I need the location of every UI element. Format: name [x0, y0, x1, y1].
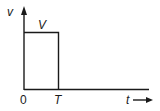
amplitude-label: V	[38, 18, 47, 32]
pulse-end-label: T	[54, 93, 63, 107]
y-axis-label: v	[7, 5, 14, 19]
pulse-waveform	[24, 33, 59, 90]
pulse-diagram: v V 0 T t	[0, 0, 160, 111]
x-axis-label: t	[126, 93, 130, 107]
origin-label: 0	[20, 93, 27, 107]
x-axis-arrowhead-icon	[146, 97, 153, 103]
y-axis-arrowhead-icon	[21, 6, 27, 15]
